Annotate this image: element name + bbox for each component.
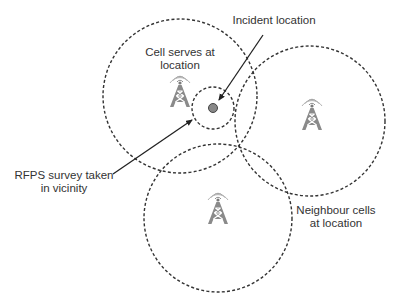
- cell-tower-icon: [170, 76, 190, 107]
- rfps-survey-label-line2: in vicinity: [41, 182, 88, 194]
- incident-location-marker: [209, 104, 218, 113]
- cell-tower-icon: [208, 193, 228, 224]
- neighbour-cells-label-line2: at location: [310, 217, 362, 229]
- cell-tower-icon: [302, 99, 322, 130]
- serving-cell-label-line2: location: [160, 59, 200, 71]
- neighbour-cells-label-line1: Neighbour cells: [296, 204, 376, 216]
- incident-location-label: Incident location: [232, 14, 315, 26]
- serving-cell-label-line1: Cell serves at: [145, 46, 215, 58]
- rfps-survey-label-line1: RFPS survey taken: [14, 169, 113, 181]
- cell-coverage-diagram: Cell serves at location Incident locatio…: [0, 0, 403, 306]
- rfps-pointer-arrow: [113, 120, 192, 174]
